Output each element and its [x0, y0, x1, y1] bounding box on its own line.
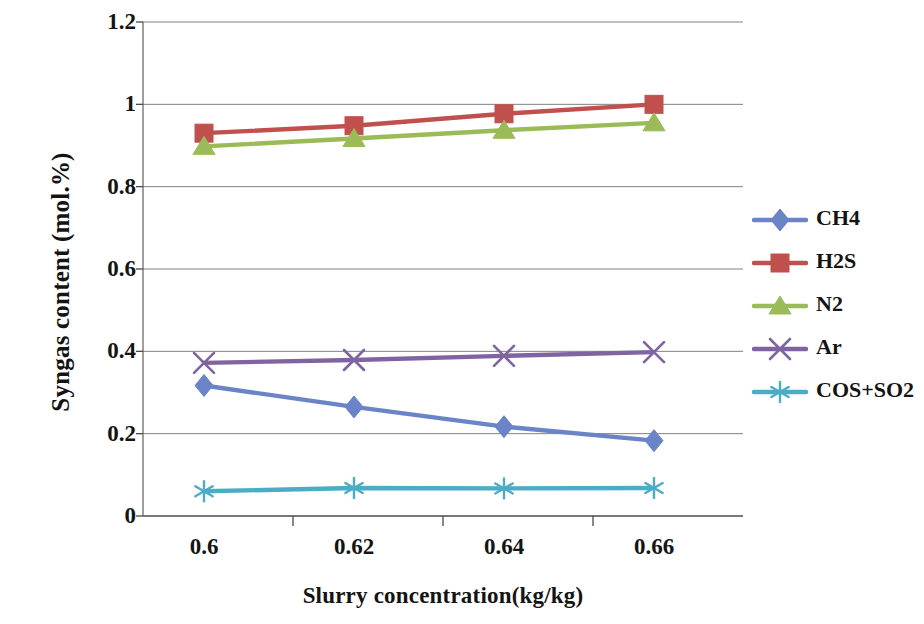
legend-marker-icon [752, 293, 808, 315]
chart-legend: CH4H2SN2ArCOS+SO2 [752, 196, 922, 411]
legend-marker-icon [752, 250, 808, 272]
data-point-marker [771, 254, 789, 272]
syngas-content-line-chart: Syngas content (mol.%) Slurry concentrat… [0, 0, 924, 624]
legend-marker-icon [752, 207, 808, 229]
legend-marker-icon [752, 336, 808, 358]
legend-item-CH4[interactable]: CH4 [752, 196, 922, 239]
data-point-marker [645, 95, 663, 113]
series-Ar [194, 342, 664, 373]
legend-item-N2[interactable]: N2 [752, 282, 922, 325]
series-line [204, 104, 654, 133]
series-line [204, 123, 654, 146]
data-point-marker [195, 375, 213, 397]
data-point-marker [645, 430, 663, 452]
legend-item-label: Ar [816, 334, 842, 360]
data-point-marker [495, 416, 513, 438]
legend-item-label: COS+SO2 [816, 377, 914, 403]
legend-marker-icon [752, 379, 808, 401]
series-CH4 [195, 375, 663, 452]
legend-item-H2S[interactable]: H2S [752, 239, 922, 282]
data-point-marker [771, 209, 789, 231]
series-line [204, 488, 654, 491]
legend-item-label: N2 [816, 291, 843, 317]
legend-item-label: CH4 [816, 205, 860, 231]
series-line [204, 386, 654, 441]
series-COS+SO2 [195, 478, 662, 501]
data-point-marker [345, 396, 363, 418]
legend-item-Ar[interactable]: Ar [752, 325, 922, 368]
legend-item-label: H2S [816, 248, 856, 274]
legend-item-COS+SO2[interactable]: COS+SO2 [752, 368, 922, 411]
series-line [204, 352, 654, 363]
